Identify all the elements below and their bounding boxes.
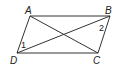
parallelogram-diagram: A B C D 1 2 — [0, 0, 118, 67]
vertex-label-a: A — [24, 5, 32, 16]
vertex-label-c: C — [93, 55, 101, 66]
vertex-label-d: D — [10, 55, 17, 66]
diagonal-bd — [17, 16, 110, 53]
angle-label-2: 2 — [99, 23, 104, 33]
side-bc — [98, 16, 110, 53]
angle-label-1: 1 — [21, 40, 26, 50]
vertex-label-b: B — [105, 5, 112, 16]
